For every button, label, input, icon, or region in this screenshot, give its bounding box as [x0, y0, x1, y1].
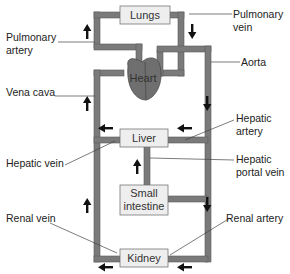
- small-intestine-label-1: Small: [130, 187, 158, 199]
- kidney-box: Kidney: [120, 249, 168, 267]
- arrow-left-icon: [98, 263, 113, 271]
- arrow-left-icon: [177, 263, 192, 271]
- liver-box: Liver: [120, 129, 168, 147]
- lungs-box: Lungs: [120, 6, 170, 24]
- kidney-label: Kidney: [127, 252, 161, 264]
- aorta-vessel: [157, 46, 211, 52]
- arrow-up-icon: [83, 24, 91, 39]
- heart: Heart: [128, 58, 161, 100]
- label-vena-cava: Vena cava: [6, 86, 55, 98]
- label-aorta: Aorta: [241, 56, 266, 68]
- arrow-up-icon: [83, 198, 91, 213]
- pulmonary-vein-vessel: [178, 12, 184, 76]
- arrow-left-icon: [177, 124, 192, 132]
- renal-vein-vessel: [94, 256, 120, 262]
- small-intestine-label-2: intestine: [124, 200, 165, 212]
- arrow-up-icon: [83, 96, 91, 111]
- renal-artery-vessel: [168, 256, 208, 262]
- arrow-up-icon: [133, 159, 141, 174]
- label-pulmonary-vein-2: vein: [233, 21, 252, 33]
- heart-label: Heart: [130, 72, 157, 84]
- label-renal-artery: Renal artery: [226, 212, 284, 224]
- label-hepatic-artery-2: artery: [236, 125, 264, 137]
- lungs-label: Lungs: [130, 9, 160, 21]
- small-intestine-box: Small intestine: [120, 185, 168, 215]
- circulatory-system-diagram: Heart Lungs Liver Small intestine Kidney: [0, 0, 290, 274]
- liver-label: Liver: [132, 132, 156, 144]
- label-hepatic-vein: Hepatic vein: [6, 157, 64, 169]
- label-hepatic-portal-vein-2: portal vein: [236, 166, 285, 178]
- hepatic-artery-vessel: [168, 137, 208, 143]
- label-hepatic-portal-vein-1: Hepatic: [236, 153, 272, 165]
- hepatic-portal-vein-vessel: [144, 145, 150, 185]
- label-pulmonary-vein-1: Pulmonary: [233, 8, 284, 20]
- arrow-down-icon: [188, 24, 196, 39]
- label-hepatic-artery-1: Hepatic: [236, 112, 272, 124]
- label-pulmonary-artery-1: Pulmonary: [6, 31, 57, 43]
- label-pulmonary-artery-2: artery: [6, 44, 34, 56]
- label-renal-vein: Renal vein: [6, 212, 56, 224]
